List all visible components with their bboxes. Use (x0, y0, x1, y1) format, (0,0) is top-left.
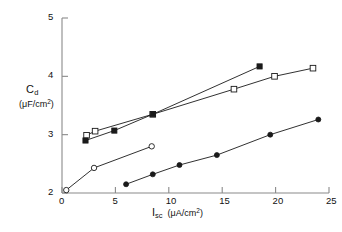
series-line-open-circles-lower (66, 146, 151, 190)
x-axis-units-text: (μA/cm (168, 208, 197, 218)
data-point-filled-circles-lower (268, 132, 273, 137)
data-point-open-squares-upper (272, 74, 278, 80)
data-point-open-squares-upper (310, 65, 316, 71)
y-axis-units-text: (μF/cm (19, 99, 47, 109)
x-axis-units-close: ) (200, 208, 203, 218)
data-point-open-circles-lower (64, 187, 69, 192)
data-point-filled-circles-lower (124, 182, 129, 187)
x-axis-label-subscript: sc (155, 211, 163, 220)
y-axis-label-symbol: Cd (26, 83, 39, 97)
data-point-filled-squares-upper (257, 64, 262, 69)
x-tick-label: 0 (59, 195, 64, 206)
y-axis-label-base: C (26, 83, 34, 95)
data-point-filled-circles-lower (177, 163, 182, 168)
figure-panel: Cd (μF/cm2) Isc (μA/cm2) 23450510152025 (0, 0, 342, 232)
data-point-open-circles-lower (91, 165, 96, 170)
x-axis-label: Isc (μA/cm2) (152, 206, 203, 220)
y-tick-label: 2 (48, 186, 53, 197)
y-axis-label-subscript: d (34, 88, 38, 97)
y-tick-label: 4 (48, 69, 53, 80)
data-point-open-squares-upper (84, 132, 90, 138)
data-point-open-squares-upper (92, 128, 98, 134)
data-point-filled-squares-upper (150, 112, 155, 117)
y-tick-label: 5 (48, 11, 53, 22)
x-tick-label: 5 (112, 195, 117, 206)
data-point-filled-circles-lower (316, 117, 321, 122)
data-point-open-circles-lower (149, 144, 154, 149)
data-point-filled-squares-upper (83, 138, 88, 143)
data-point-filled-squares-upper (112, 128, 117, 133)
y-axis-units: (μF/cm2) (19, 98, 54, 109)
data-point-open-squares-upper (231, 86, 237, 92)
x-tick-label: 20 (273, 195, 284, 206)
x-tick-label: 25 (326, 195, 337, 206)
series-line-open-squares-upper (87, 68, 313, 135)
y-axis-units-close: ) (51, 99, 54, 109)
data-point-filled-circles-lower (214, 153, 219, 158)
x-tick-label: 15 (219, 195, 230, 206)
y-tick-label: 3 (48, 128, 53, 139)
data-point-filled-circles-lower (150, 172, 155, 177)
x-tick-label: 10 (166, 195, 177, 206)
